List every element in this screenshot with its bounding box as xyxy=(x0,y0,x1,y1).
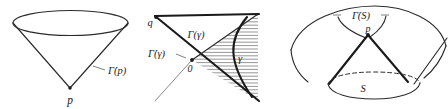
panel-right-apex-label: p xyxy=(365,23,371,34)
figure-canvas: p Γ̇(p) xyxy=(0,0,448,109)
q-point-marker xyxy=(154,15,158,19)
cone-right-slant xyxy=(368,35,408,82)
wedge-lower-left-diagonal xyxy=(155,60,192,101)
panel-middle-interior-label: Γ(γ) xyxy=(186,29,205,41)
panel-right-group: Γ̇(S) p S xyxy=(291,6,447,99)
panel-left-boundary-label: Γ̇(p) xyxy=(107,65,127,77)
panel-right-boundary-label: Γ̇(S) xyxy=(351,10,371,22)
base-ellipse-back-dashed xyxy=(328,72,420,84)
wedge-top-edge xyxy=(155,14,259,16)
external-diagonal-line xyxy=(414,38,447,84)
figure-root: p Γ̇(p) xyxy=(0,0,448,109)
panel-right-surface-label: S xyxy=(360,83,366,94)
base-ellipse-front xyxy=(328,83,420,99)
boundary-leader-line xyxy=(93,66,105,70)
panel-middle-origin-label: 0 xyxy=(188,63,193,74)
cone-left-edge xyxy=(13,23,70,88)
outer-arc-left-tail xyxy=(291,50,308,82)
panel-middle-q-label: q xyxy=(147,17,152,28)
panel-middle-boundary-label: Γ̇(γ) xyxy=(147,48,166,60)
outer-arc-right-tail xyxy=(424,46,446,78)
cone-rim-ellipse xyxy=(13,11,128,36)
inner-arc-right xyxy=(370,16,386,37)
panel-left-apex-label: p xyxy=(66,94,73,107)
origin-point-marker xyxy=(190,58,194,62)
wedge-boundary-leader-line xyxy=(176,54,186,58)
cone-left-slant xyxy=(329,35,368,84)
panel-middle-group: q Γ(γ) Γ̇(γ) 0 γ xyxy=(147,14,266,101)
panel-left-group: p Γ̇(p) xyxy=(13,11,128,108)
apex-point-marker xyxy=(68,86,71,89)
cone-right-edge xyxy=(70,23,128,88)
